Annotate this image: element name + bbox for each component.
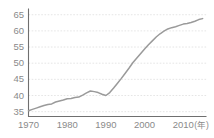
x-tick-label: 1990 [95, 119, 116, 130]
y-axis-tick-labels: 35404550556065 [13, 9, 24, 117]
data-series [29, 19, 203, 111]
x-tick-label: 2000 [134, 119, 155, 130]
gridlines [29, 15, 207, 112]
y-tick-label: 40 [13, 90, 24, 101]
x-tick-label: 1970 [18, 119, 39, 130]
x-axis-unit-label: (年) [194, 120, 209, 130]
y-tick-label: 60 [13, 25, 24, 36]
y-tick-label: 55 [13, 41, 24, 52]
x-axis-tick-labels: 19701980199020002010 [18, 119, 194, 130]
chart-canvas: 35404550556065 19701980199020002010 (年) [0, 0, 214, 138]
y-tick-label: 35 [13, 106, 24, 117]
y-tick-label: 65 [13, 9, 24, 20]
y-tick-label: 45 [13, 73, 24, 84]
x-tick-label: 1980 [57, 119, 78, 130]
x-tick-label: 2010 [173, 119, 194, 130]
series-line-1 [29, 19, 203, 111]
axis-unit-label: (年) [194, 120, 209, 130]
line-chart: 35404550556065 19701980199020002010 (年) [0, 0, 214, 138]
y-tick-label: 50 [13, 57, 24, 68]
